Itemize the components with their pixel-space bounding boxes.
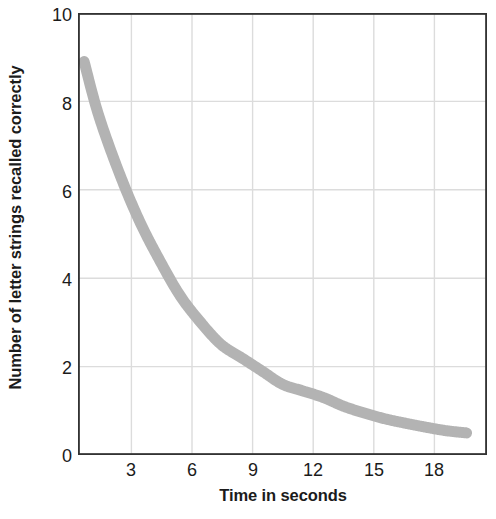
- chart-figure: Number of letter strings recalled correc…: [0, 0, 496, 519]
- y-axis-tick-labels: 10 8 6 4 2 0: [30, 0, 72, 519]
- y-tick-4: 4: [34, 271, 72, 289]
- x-tick-9: 9: [233, 461, 273, 479]
- plot-area: [78, 13, 487, 455]
- x-axis-tick-labels: 3 6 9 12 15 18: [0, 461, 496, 487]
- y-tick-6: 6: [34, 183, 72, 201]
- y-axis-label: Number of letter strings recalled correc…: [0, 0, 30, 455]
- y-tick-10: 10: [34, 6, 72, 24]
- x-tick-3: 3: [111, 461, 151, 479]
- y-tick-2: 2: [34, 359, 72, 377]
- x-axis-label: Time in seconds: [78, 486, 488, 505]
- x-tick-12: 12: [293, 461, 333, 479]
- x-tick-6: 6: [172, 461, 212, 479]
- x-tick-18: 18: [414, 461, 454, 479]
- chart-canvas: [78, 13, 487, 455]
- x-tick-15: 15: [354, 461, 394, 479]
- y-tick-8: 8: [34, 95, 72, 113]
